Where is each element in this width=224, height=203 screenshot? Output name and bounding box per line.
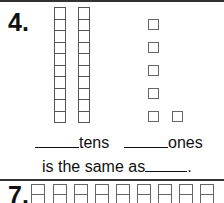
problem-7-column bbox=[137, 184, 151, 203]
problem-7-column bbox=[31, 184, 45, 203]
ones-cube bbox=[148, 111, 159, 122]
problem-7-column bbox=[116, 184, 130, 203]
problem-7-column bbox=[95, 184, 109, 203]
equivalence-line: is the same as. bbox=[42, 157, 192, 175]
bottom-divider bbox=[0, 179, 224, 181]
problem-7-column bbox=[158, 184, 172, 203]
problem-4-number: 4. bbox=[8, 10, 29, 35]
tens-column-2 bbox=[78, 7, 90, 123]
ones-cube bbox=[148, 88, 159, 99]
ones-cube bbox=[172, 111, 183, 122]
tens-label: tens bbox=[79, 134, 109, 151]
ones-cube bbox=[148, 65, 159, 76]
ones-blank[interactable] bbox=[124, 133, 168, 148]
equivalence-blank[interactable] bbox=[145, 157, 187, 172]
ones-cube bbox=[148, 19, 159, 30]
problem-7-column bbox=[179, 184, 193, 203]
ones-cube bbox=[148, 42, 159, 53]
tens-blank[interactable] bbox=[35, 133, 79, 148]
problem-7-number: 7. bbox=[8, 183, 29, 203]
problem-7-column bbox=[74, 184, 88, 203]
problem-7-column bbox=[53, 184, 67, 203]
ones-label: ones bbox=[168, 134, 203, 151]
equivalence-text: is the same as bbox=[42, 158, 145, 175]
tens-answer-line: tens bbox=[35, 133, 109, 151]
period: . bbox=[187, 158, 191, 175]
problem-7-column bbox=[200, 184, 214, 203]
top-divider bbox=[0, 0, 224, 2]
ones-answer-line: ones bbox=[124, 133, 203, 151]
tens-column-1 bbox=[54, 7, 66, 123]
